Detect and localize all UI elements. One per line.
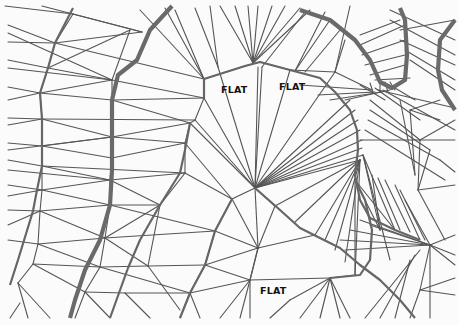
- flat-label-bottom: FLAT: [260, 285, 286, 296]
- flat-label-right: FLAT: [279, 81, 305, 92]
- flat-label-left: FLAT: [221, 84, 247, 95]
- tin-diagram: FLAT FLAT FLAT: [0, 0, 459, 325]
- tin-mesh: [0, 0, 459, 325]
- triangle-edges: [5, 6, 455, 318]
